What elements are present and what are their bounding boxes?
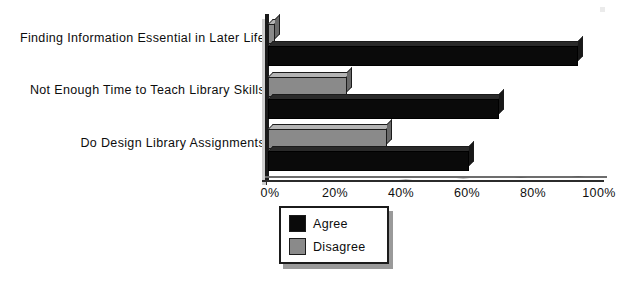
plot-area: [268, 16, 604, 178]
bar-front-face: [268, 46, 578, 66]
x-tick-label-100: 100%: [582, 186, 616, 200]
bar-agree-2: [268, 151, 469, 171]
scan-artifact: [600, 7, 605, 12]
category-axis-line: [262, 180, 604, 182]
bar-side-face: [469, 141, 474, 166]
bar-side-face: [387, 119, 392, 144]
bar-side-face: [578, 36, 583, 61]
x-tick-label-60: 60%: [454, 186, 480, 200]
x-tick-label-0: 0%: [261, 186, 280, 200]
x-tick-label-80: 80%: [520, 186, 546, 200]
bar-side-face: [499, 89, 504, 114]
legend-label-agree: Agree: [313, 217, 348, 231]
category-label-0: Finding Information Essential in Later L…: [20, 31, 265, 45]
bar-agree-0: [268, 46, 578, 66]
category-label-1: Not Enough Time to Teach Library Skills: [30, 83, 265, 97]
x-tick-label-40: 40%: [388, 186, 414, 200]
bar-agree-1: [268, 99, 499, 119]
legend-label-disagree: Disagree: [313, 240, 365, 254]
bar-front-face: [268, 151, 469, 171]
bar-side-face: [347, 67, 352, 92]
legend-item-agree: Agree: [289, 215, 348, 232]
legend-item-disagree: Disagree: [289, 238, 365, 255]
bar-front-face: [268, 99, 499, 119]
chart-legend: Agree Disagree: [279, 206, 389, 264]
bar-chart: Finding Information Essential in Later L…: [0, 0, 631, 283]
legend-swatch-agree: [289, 215, 306, 232]
bar-side-face: [275, 14, 280, 39]
category-label-2: Do Design Library Assignments: [80, 136, 265, 150]
x-tick-label-20: 20%: [322, 186, 348, 200]
legend-swatch-disagree: [289, 238, 306, 255]
